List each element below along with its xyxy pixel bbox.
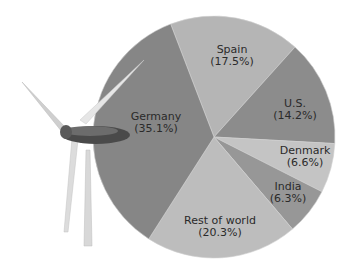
slice-label-germany: Germany (35.1%) — [131, 111, 182, 135]
label-pct: (6.3%) — [270, 193, 307, 205]
slice-label-rest-of-world: Rest of world (20.3%) — [184, 215, 256, 239]
label-pct: (14.2%) — [273, 110, 317, 122]
slice-label-spain: Spain (17.5%) — [210, 44, 254, 68]
label-pct: (17.5%) — [210, 56, 254, 68]
label-pct: (20.3%) — [184, 227, 256, 239]
label-pct: (6.6%) — [280, 157, 331, 169]
label-pct: (35.1%) — [131, 123, 182, 135]
slice-label-india: India (6.3%) — [270, 181, 307, 205]
slice-label-denmark: Denmark (6.6%) — [280, 145, 331, 169]
slice-label-us: U.S. (14.2%) — [273, 98, 317, 122]
